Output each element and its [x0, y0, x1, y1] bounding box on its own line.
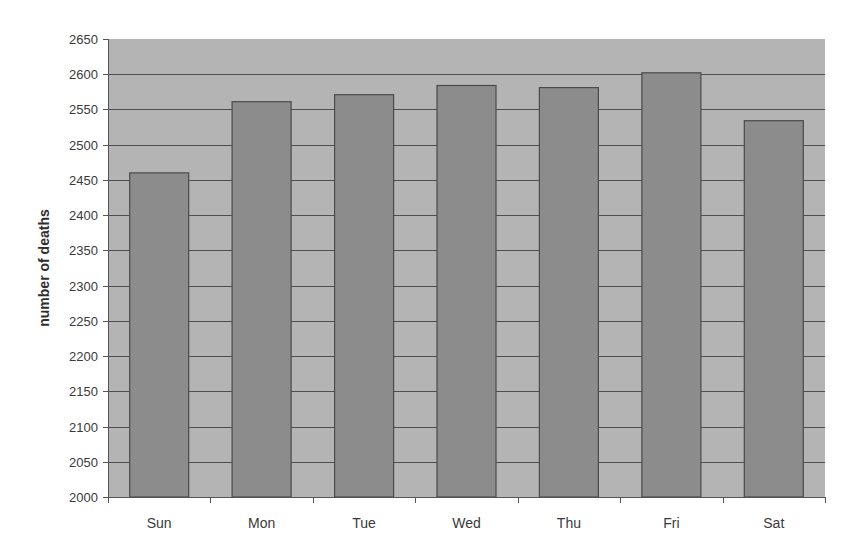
y-tick-label: 2450 [69, 173, 98, 188]
x-category-label: Wed [452, 515, 481, 531]
y-tick-label: 2050 [69, 455, 98, 470]
y-tick-label: 2550 [69, 102, 98, 117]
bar-sat [744, 121, 803, 497]
bar-thu [539, 88, 598, 497]
bar-fri [642, 73, 701, 497]
y-tick-label: 2400 [69, 208, 98, 223]
y-axis-title: number of deaths [36, 209, 52, 327]
y-tick-label: 2100 [69, 420, 98, 435]
bar-wed [437, 86, 496, 498]
y-tick-label: 2200 [69, 349, 98, 364]
y-tick-label: 2600 [69, 67, 98, 82]
x-category-label: Mon [248, 515, 275, 531]
bar-sun [130, 173, 189, 497]
y-tick-label: 2300 [69, 279, 98, 294]
x-category-label: Thu [557, 515, 581, 531]
x-category-label: Sat [763, 515, 784, 531]
y-axis-tick-labels: 2000205021002150220022502300235024002450… [69, 32, 98, 505]
bar-chart: 2000205021002150220022502300235024002450… [0, 0, 867, 560]
y-tick-label: 2500 [69, 138, 98, 153]
x-category-label: Fri [663, 515, 679, 531]
x-category-label: Sun [147, 515, 172, 531]
y-tick-label: 2150 [69, 384, 98, 399]
x-category-label: Tue [352, 515, 376, 531]
bar-mon [232, 102, 291, 497]
y-tick-label: 2350 [69, 243, 98, 258]
y-tick-label: 2000 [69, 490, 98, 505]
y-tick-label: 2250 [69, 314, 98, 329]
y-tick-label: 2650 [69, 32, 98, 47]
x-axis-category-labels: SunMonTueWedThuFriSat [147, 515, 785, 531]
bar-tue [335, 95, 394, 497]
